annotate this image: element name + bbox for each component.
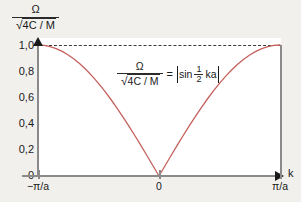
x-tick-pi-over-a [280,170,282,179]
ka-term: ka [205,68,216,80]
y-axis-arrow-icon [33,37,43,46]
one-half-fraction: 1 2 [194,65,203,84]
equation-denominator: √4C / M [117,74,163,88]
equation-numerator: Ω [117,61,163,74]
dispersion-relation-chart: Ω √4C / M 1,0 0,8 0,6 0,4 0,2 0 −π/a 0 π… [0,0,301,202]
sqrt-group: √4C / M [15,19,56,32]
x-axis-label: k [288,167,294,179]
right-boundary-line [280,45,282,176]
x-tick-zero [159,170,161,179]
y-tick-label-1.0: 1,0 [6,40,34,51]
sin-function-name: sin [179,68,192,80]
equation-annotation: Ω √4C / M = sin 1 2 ka [117,61,219,88]
one-half-denominator: 2 [194,75,203,84]
equation-fraction: Ω √4C / M [117,61,163,88]
reference-line-dashed [39,45,281,46]
y-tick-label-0.8: 0,8 [6,66,34,77]
y-tick-label-0.4: 0,4 [6,118,34,129]
y-axis-title: Ω √4C / M [12,4,59,31]
x-tick-label-zero: 0 [139,181,179,192]
y-axis-title-fraction: Ω √4C / M [12,4,59,31]
y-tick-label-0.6: 0,6 [6,92,34,103]
x-axis-line [22,175,276,177]
abs-bar-left-icon [177,66,178,83]
x-tick-minus-pi-over-a [38,170,40,179]
abs-bar-right-icon [218,66,219,83]
x-tick-label-pi-over-a: π/a [260,181,300,192]
equation-sqrt-group: √4C / M [120,75,160,88]
y-axis-line [37,45,39,176]
equation-radicand: 4C / M [127,74,160,87]
x-tick-label-minus-pi-over-a: −π/a [18,181,58,192]
y-axis-title-denominator: √4C / M [12,18,59,32]
y-axis-title-radicand: 4C / M [22,18,56,31]
y-tick-label-0.2: 0,2 [6,144,34,155]
y-axis-title-numerator: Ω [12,4,59,18]
equals-sign: = [167,68,173,80]
equation-right-hand-side: sin 1 2 ka [177,65,219,84]
